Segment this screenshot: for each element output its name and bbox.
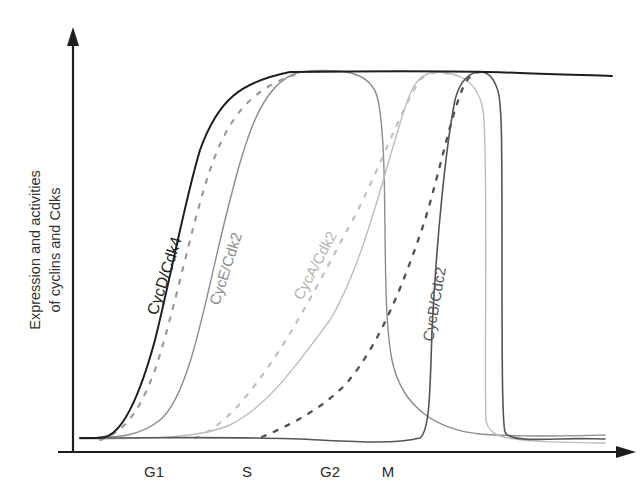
phase-label-g2: G2 — [320, 463, 340, 480]
label-cyca-cdk2: CycA/Cdk2 — [290, 228, 340, 302]
label-cycb-cdc2: CycB/Cdc2 — [419, 266, 449, 343]
phase-label-s: S — [242, 463, 252, 480]
y-axis-label-line2: of cyclins and Cdks — [47, 188, 63, 313]
phase-label-g1: G1 — [144, 463, 164, 480]
curve-cycd-cdk4-activity — [100, 73, 300, 440]
phase-label-m: M — [382, 463, 395, 480]
curve-cycb-cdc2-activity — [262, 72, 480, 437]
y-axis-label-line1: Expression and activities — [27, 170, 43, 330]
curve-cycd-cdk4 — [80, 71, 612, 438]
curves — [80, 70, 612, 443]
y-axis-label: Expression and activities of cyclins and… — [27, 170, 63, 330]
phase-labels: G1 S G2 M — [144, 463, 394, 480]
label-cyce-cdk2: CycE/Cdk2 — [206, 230, 245, 307]
y-axis-arrow-icon — [67, 27, 79, 46]
curve-cyce-cdk2 — [80, 70, 605, 438]
x-axis-arrow-icon — [616, 446, 636, 458]
cell-cycle-diagram: Expression and activities of cyclins and… — [0, 0, 644, 492]
